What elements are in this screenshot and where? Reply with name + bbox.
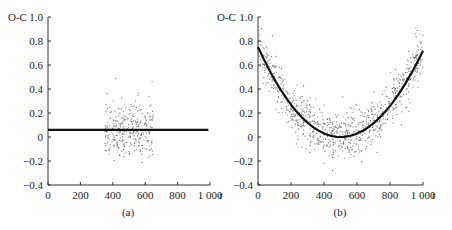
y-tick-label: 1.0: [29, 11, 43, 23]
y-tick-label: 0.6: [29, 59, 43, 71]
fit-line: [258, 47, 423, 137]
chart-panel-a: −0.4−0.200.20.40.60.81.002004006008001 0…: [8, 11, 223, 219]
x-tick-label: 600: [137, 189, 154, 201]
y-tick-label: 0.2: [239, 107, 253, 119]
scatter-points: [105, 78, 154, 163]
y-tick-label: −0.2: [23, 155, 43, 167]
x-tick-label: 200: [72, 189, 89, 201]
y-tick-label: −0.4: [233, 179, 253, 191]
x-tick-label: 400: [105, 189, 122, 201]
x-tick-label: 600: [349, 189, 366, 201]
y-tick-label: 0: [38, 131, 44, 143]
y-tick-label: −0.4: [23, 179, 43, 191]
y-tick-label: 0.2: [29, 107, 43, 119]
x-tick-label: 0: [255, 189, 261, 201]
y-tick-label: 0: [248, 131, 254, 143]
y-tick-label: 0.4: [29, 83, 43, 95]
y-tick-label: 0.4: [239, 83, 253, 95]
panel-label: (b): [334, 206, 347, 219]
x-tick-label: 200: [283, 189, 300, 201]
x-axis-title: t: [219, 189, 223, 201]
y-tick-label: 0.6: [239, 59, 253, 71]
y-axis-title: O-C: [8, 11, 27, 23]
x-tick-label: 800: [382, 189, 399, 201]
y-tick-label: 0.8: [29, 35, 43, 47]
figure: −0.4−0.200.20.40.60.81.002004006008001 0…: [0, 0, 452, 230]
y-tick-label: 0.8: [239, 35, 253, 47]
x-tick-label: 800: [169, 189, 186, 201]
y-tick-label: −0.2: [233, 155, 253, 167]
scatter-points: [258, 27, 424, 171]
y-axis-title: O-C: [217, 11, 236, 23]
panel-label: (a): [122, 206, 135, 219]
chart-panel-b: −0.4−0.200.20.40.60.81.002004006008001 0…: [217, 11, 436, 219]
x-tick-label: 400: [316, 189, 333, 201]
y-tick-label: 1.0: [239, 11, 253, 23]
x-axis-title: t: [432, 189, 436, 201]
x-tick-label: 0: [45, 189, 51, 201]
